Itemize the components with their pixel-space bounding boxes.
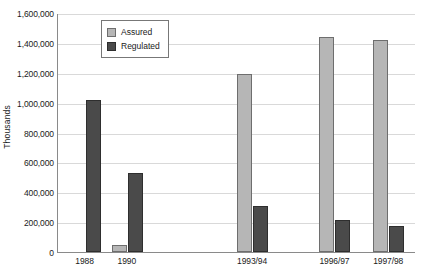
y-axis-tick-label: 0	[49, 248, 54, 258]
bar-regulated-1990[interactable]	[128, 173, 143, 252]
y-axis-tick-labels: 0200,000400,000600,000800,0001,000,0001,…	[14, 0, 56, 279]
y-axis-tick-label: 1,200,000	[17, 69, 54, 79]
y-axis-title-label: Thousands	[2, 105, 12, 149]
legend-swatch-icon	[107, 42, 116, 51]
chart-legend: AssuredRegulated	[101, 20, 169, 58]
y-axis-tick-label: 800,000	[24, 129, 54, 139]
x-axis-tick-labels: 198819901993/941996/971997/98	[57, 256, 415, 276]
bar-assured-1993-94[interactable]	[237, 74, 252, 252]
bar-group	[70, 14, 102, 252]
bar-group	[373, 14, 405, 252]
y-axis-tick-label: 1,400,000	[17, 39, 54, 49]
legend-item-label: Regulated	[121, 41, 160, 51]
bar-regulated-1988[interactable]	[86, 100, 101, 252]
legend-swatch-icon	[107, 28, 116, 37]
legend-item-regulated[interactable]: Regulated	[107, 39, 160, 53]
bar-assured-1997-98[interactable]	[373, 40, 388, 252]
x-axis-tick-label: 1990	[118, 256, 137, 266]
bar-group	[319, 14, 351, 252]
bar-regulated-1993-94[interactable]	[253, 206, 268, 252]
bar-chart: Thousands 0200,000400,000600,000800,0001…	[0, 0, 421, 279]
x-axis-tick-label: 1997/98	[373, 256, 403, 266]
x-axis-tick-label: 1988	[75, 256, 94, 266]
legend-item-label: Assured	[121, 27, 152, 37]
y-axis-tick-label: 1,600,000	[17, 9, 54, 19]
bar-regulated-1996-97[interactable]	[335, 220, 350, 252]
x-axis-tick-label: 1993/94	[237, 256, 267, 266]
bar-assured-1990[interactable]	[112, 245, 127, 252]
bar-group	[237, 14, 269, 252]
y-axis-tick-label: 600,000	[24, 158, 54, 168]
bar-assured-1996-97[interactable]	[319, 37, 334, 252]
y-axis-title: Thousands	[0, 0, 14, 253]
x-axis-tick-label: 1996/97	[319, 256, 349, 266]
bar-regulated-1997-98[interactable]	[389, 226, 404, 252]
legend-item-assured[interactable]: Assured	[107, 25, 160, 39]
y-axis-tick-label: 400,000	[24, 188, 54, 198]
y-axis-tick-label: 200,000	[24, 218, 54, 228]
y-axis-tick-label: 1,000,000	[17, 99, 54, 109]
